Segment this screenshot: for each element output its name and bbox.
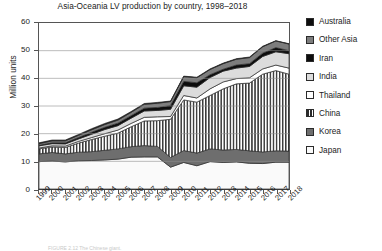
legend-label: Iran: [319, 54, 333, 63]
y-tick-label-50: 50: [0, 45, 30, 54]
legend-swatch-icon-other-asia: [306, 36, 314, 44]
legend-item-india[interactable]: India: [306, 72, 357, 81]
legend-label: China: [319, 109, 340, 118]
legend-swatch-icon-thailand: [306, 91, 314, 99]
plot-area: [38, 22, 290, 190]
legend-label: Japan: [319, 146, 341, 155]
legend-swatch-icon-korea: [306, 128, 314, 136]
chart-title: Asia-Oceania LV production by country, 1…: [0, 1, 305, 11]
legend-label: Korea: [319, 127, 341, 136]
legend-swatch-icon-australia: [306, 18, 314, 26]
y-tick-label-20: 20: [0, 129, 30, 138]
y-tick-label-0: 0: [0, 185, 30, 194]
chart-legend: AustraliaOther AsiaIranIndiaThailandChin…: [306, 17, 357, 155]
legend-item-other-asia[interactable]: Other Asia: [306, 35, 357, 44]
legend-swatch-icon-india: [306, 73, 314, 81]
legend-label: Thailand: [319, 91, 350, 100]
legend-swatch-icon-japan: [306, 146, 314, 154]
figure-caption: FIGURE 2.12 The Chinese giant.: [48, 245, 121, 251]
legend-item-thailand[interactable]: Thailand: [306, 91, 357, 100]
legend-label: India: [319, 72, 337, 81]
stacked-area-series: [39, 23, 289, 189]
legend-item-iran[interactable]: Iran: [306, 54, 357, 63]
legend-item-australia[interactable]: Australia: [306, 17, 357, 26]
legend-item-japan[interactable]: Japan: [306, 146, 357, 155]
legend-label: Other Asia: [319, 35, 357, 44]
legend-swatch-icon-iran: [306, 54, 314, 62]
y-tick-label-60: 60: [0, 17, 30, 26]
y-tick-label-30: 30: [0, 101, 30, 110]
legend-label: Australia: [319, 17, 351, 26]
legend-item-korea[interactable]: Korea: [306, 127, 357, 136]
y-tick-label-40: 40: [0, 73, 30, 82]
legend-swatch-icon-china: [306, 109, 314, 117]
y-tick-label-10: 10: [0, 157, 30, 166]
legend-item-china[interactable]: China: [306, 109, 357, 118]
